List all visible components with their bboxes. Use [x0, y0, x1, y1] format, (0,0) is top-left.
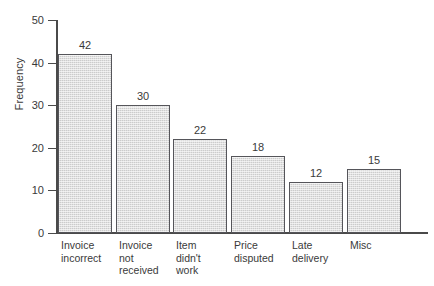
- bar-value-label: 42: [58, 40, 112, 51]
- y-axis-tick: [48, 148, 58, 149]
- y-axis-tick-label: 40: [8, 58, 44, 69]
- bar: [289, 182, 343, 233]
- bar: [116, 105, 170, 233]
- y-axis-tick: [48, 190, 58, 191]
- x-axis-category-label: Invoice incorrect: [61, 239, 121, 264]
- bar: [347, 169, 401, 233]
- bar: [173, 139, 227, 233]
- y-axis-tick-label: 50: [8, 15, 44, 26]
- x-axis-category-label: Price disputed: [234, 239, 294, 264]
- y-axis-tick-label: 30: [8, 100, 44, 111]
- bar-value-label: 22: [173, 125, 227, 136]
- y-axis-tick: [48, 233, 58, 234]
- bar-chart-figure: Frequency 50403020100 423022181215 Invoi…: [0, 0, 434, 286]
- x-axis-category-label: Misc: [350, 239, 410, 252]
- x-axis-category-label: Item didn't work: [176, 239, 236, 277]
- y-axis-tick-label: 0: [8, 228, 44, 239]
- bar: [231, 156, 285, 233]
- bar: [58, 54, 112, 233]
- x-axis-category-label: Late delivery: [292, 239, 352, 264]
- y-axis-tick-label: 10: [8, 185, 44, 196]
- bar-value-label: 30: [116, 91, 170, 102]
- x-axis-category-label: Invoice not received: [119, 239, 179, 277]
- y-axis-title: Frequency: [13, 29, 25, 139]
- bar-value-label: 18: [231, 142, 285, 153]
- y-axis-tick: [48, 105, 58, 106]
- y-axis-tick: [48, 20, 58, 21]
- bar-value-label: 12: [289, 168, 343, 179]
- y-axis-tick: [48, 63, 58, 64]
- bar-value-label: 15: [347, 155, 401, 166]
- y-axis-tick-label: 20: [8, 143, 44, 154]
